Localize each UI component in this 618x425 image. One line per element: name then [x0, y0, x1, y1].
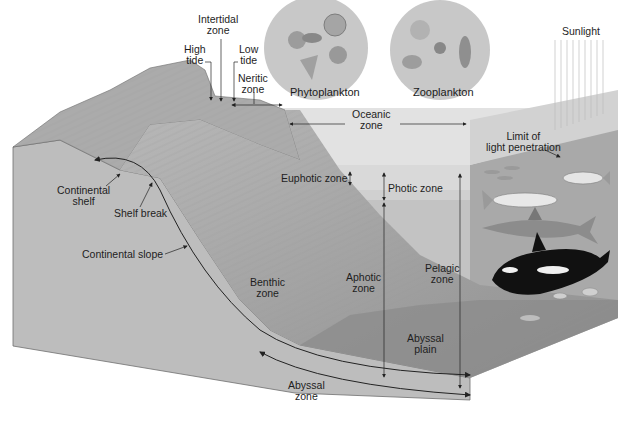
- aphotic-zone-label: Aphotic zone: [346, 272, 381, 294]
- pelagic-zone-label: Pelagic zone: [425, 263, 459, 285]
- abyssal-plain-label: Abyssal plain: [407, 333, 444, 355]
- phytoplankton-circle: [264, 0, 368, 100]
- continental-shelf-label: Continental shelf: [57, 185, 110, 207]
- phytoplankton-label: Phytoplankton: [290, 86, 360, 98]
- neritic-zone-label: Neritic zone: [238, 73, 268, 95]
- marine-zones-diagram: [0, 0, 618, 425]
- limit-of-light-penetration-label: Limit of light penetration: [486, 131, 561, 153]
- euphotic-zone-label: Euphotic zone: [281, 173, 348, 184]
- oceanic-zone-label: Oceanic zone: [352, 109, 391, 131]
- zooplankton-label: Zooplankton: [413, 86, 474, 98]
- continental-slope-label: Continental slope: [82, 249, 163, 260]
- sunlight-label: Sunlight: [562, 26, 600, 37]
- low-tide-label: Low tide: [239, 44, 258, 66]
- photic-zone-label: Photic zone: [388, 183, 443, 194]
- high-tide-label: High tide: [184, 44, 206, 66]
- abyssal-zone-label: Abyssal zone: [288, 380, 325, 402]
- benthic-zone-label: Benthic zone: [250, 277, 285, 299]
- intertidal-zone-label: Intertidal zone: [198, 14, 238, 36]
- shelf-break-label: Shelf break: [114, 208, 167, 219]
- zooplankton-circle: [390, 0, 490, 100]
